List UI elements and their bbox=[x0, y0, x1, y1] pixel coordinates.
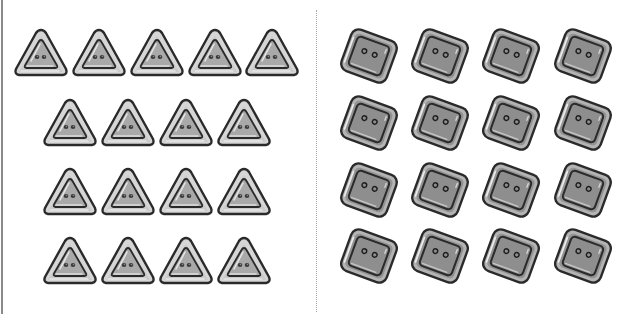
square-button-icon bbox=[338, 94, 400, 152]
square-button-icon bbox=[338, 161, 400, 219]
triangle-button bbox=[216, 236, 272, 286]
square-button bbox=[552, 227, 614, 285]
triangle-button bbox=[216, 98, 272, 148]
triangle-button-icon bbox=[158, 98, 214, 148]
square-button-icon bbox=[338, 227, 400, 285]
square-button bbox=[409, 161, 471, 219]
square-button bbox=[480, 161, 542, 219]
triangle-button-icon bbox=[216, 167, 272, 217]
triangle-button-icon bbox=[71, 28, 127, 78]
square-button-icon bbox=[552, 161, 614, 219]
square-button bbox=[409, 94, 471, 152]
triangle-button bbox=[244, 28, 300, 78]
square-button bbox=[409, 227, 471, 285]
square-button bbox=[338, 94, 400, 152]
triangle-button bbox=[158, 236, 214, 286]
triangle-button bbox=[216, 167, 272, 217]
triangle-button bbox=[129, 28, 185, 78]
square-button bbox=[480, 227, 542, 285]
square-button-icon bbox=[552, 27, 614, 85]
triangle-button-icon bbox=[13, 28, 69, 78]
square-button bbox=[338, 161, 400, 219]
triangle-button-icon bbox=[216, 236, 272, 286]
triangle-button bbox=[42, 98, 98, 148]
square-button-icon bbox=[552, 227, 614, 285]
square-button-icon bbox=[480, 27, 542, 85]
triangle-button-icon bbox=[100, 98, 156, 148]
square-button bbox=[338, 27, 400, 85]
triangle-button bbox=[71, 28, 127, 78]
triangle-button-icon bbox=[100, 236, 156, 286]
square-button bbox=[480, 27, 542, 85]
square-button-icon bbox=[409, 27, 471, 85]
square-button bbox=[552, 27, 614, 85]
square-button-icon bbox=[480, 161, 542, 219]
square-button bbox=[552, 161, 614, 219]
triangle-button-icon bbox=[42, 98, 98, 148]
square-button-icon bbox=[480, 94, 542, 152]
triangle-button-icon bbox=[158, 236, 214, 286]
button-groups bbox=[0, 0, 621, 314]
triangle-button bbox=[100, 236, 156, 286]
triangle-button-icon bbox=[216, 98, 272, 148]
square-button-icon bbox=[338, 27, 400, 85]
triangle-button-icon bbox=[42, 167, 98, 217]
triangle-button-icon bbox=[100, 167, 156, 217]
triangle-button bbox=[13, 28, 69, 78]
square-button-icon bbox=[480, 227, 542, 285]
square-button bbox=[338, 227, 400, 285]
triangle-button-icon bbox=[42, 236, 98, 286]
triangle-button-icon bbox=[129, 28, 185, 78]
square-button-icon bbox=[409, 161, 471, 219]
triangle-button bbox=[42, 167, 98, 217]
square-button bbox=[552, 94, 614, 152]
square-button-icon bbox=[409, 227, 471, 285]
square-button-icon bbox=[552, 94, 614, 152]
square-button bbox=[480, 94, 542, 152]
triangle-button-icon bbox=[187, 28, 243, 78]
triangle-button bbox=[187, 28, 243, 78]
triangle-button-icon bbox=[244, 28, 300, 78]
triangle-button bbox=[158, 98, 214, 148]
square-button bbox=[409, 27, 471, 85]
triangle-button bbox=[158, 167, 214, 217]
square-button-icon bbox=[409, 94, 471, 152]
triangle-button bbox=[100, 167, 156, 217]
triangle-button bbox=[100, 98, 156, 148]
triangle-button-icon bbox=[158, 167, 214, 217]
triangle-button bbox=[42, 236, 98, 286]
